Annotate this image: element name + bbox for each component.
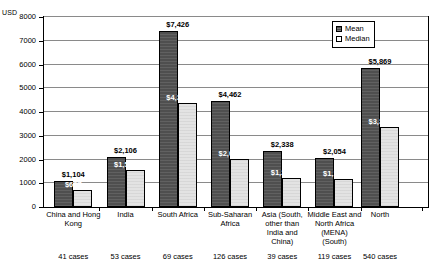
bar-value-label-median: $1,228 bbox=[252, 168, 312, 177]
bar-value-label-median: $4,366 bbox=[148, 93, 208, 102]
case-count-label: 540 cases bbox=[345, 252, 415, 261]
legend-swatch-mean-icon bbox=[336, 26, 342, 32]
bar-value-label-median: $697 bbox=[43, 180, 103, 189]
bar-mean[interactable] bbox=[361, 68, 380, 207]
y-tick-label: 2000 bbox=[2, 156, 36, 164]
y-tick-label: 3000 bbox=[2, 132, 36, 140]
legend-item-median: Median bbox=[336, 34, 370, 44]
y-tick-label: 5000 bbox=[2, 84, 36, 92]
bar-mean[interactable] bbox=[263, 151, 282, 207]
bar-median[interactable] bbox=[380, 127, 399, 207]
bar-group bbox=[107, 17, 145, 207]
bar-value-label-mean: $5,869 bbox=[350, 57, 410, 66]
bar-median[interactable] bbox=[230, 159, 249, 207]
bar-value-label-mean: $7,426 bbox=[148, 20, 208, 29]
y-tick-label: 1000 bbox=[2, 179, 36, 187]
bar-group bbox=[159, 17, 197, 207]
legend-item-mean: Mean bbox=[336, 24, 370, 34]
bar-value-label-mean: $2,054 bbox=[304, 147, 364, 156]
bar-group bbox=[263, 17, 301, 207]
bar-value-label-mean: $4,462 bbox=[200, 90, 260, 99]
bar-median[interactable] bbox=[126, 170, 145, 207]
bar-value-label-median: $1,163 bbox=[304, 169, 364, 178]
bar-value-label-mean: $1,104 bbox=[43, 170, 103, 179]
legend-label-median: Median bbox=[345, 35, 370, 43]
bar-group bbox=[211, 17, 249, 207]
bar-median[interactable] bbox=[282, 178, 301, 207]
y-tick-label: 6000 bbox=[2, 61, 36, 69]
bar-mean[interactable] bbox=[315, 158, 334, 207]
chart-legend: Mean Median bbox=[332, 21, 375, 48]
bar-value-label-median: $1,557 bbox=[96, 160, 156, 169]
bar-value-label-median: $2,029 bbox=[200, 149, 260, 158]
bar-value-label-mean: $2,106 bbox=[96, 146, 156, 155]
y-tick-label: 4000 bbox=[2, 108, 36, 116]
case-counts-row: 41 cases53 cases69 cases126 cases39 case… bbox=[43, 252, 429, 266]
bar-mean[interactable] bbox=[159, 31, 178, 207]
bar-median[interactable] bbox=[334, 179, 353, 207]
y-tick-label: 8000 bbox=[2, 13, 36, 21]
bar-chart: USD 010002000300040005000600070008000 $1… bbox=[0, 0, 442, 274]
bar-median[interactable] bbox=[73, 190, 92, 207]
x-axis-category-label: North bbox=[342, 210, 418, 219]
bar-value-label-mean: $2,338 bbox=[252, 140, 312, 149]
x-axis-labels: China and HongKongIndiaSouth AfricaSub-S… bbox=[43, 210, 429, 250]
legend-swatch-median-icon bbox=[336, 36, 342, 42]
bar-value-label-median: $3,380 bbox=[350, 117, 410, 126]
y-tick-label: 0 bbox=[2, 203, 36, 211]
y-tick-label: 7000 bbox=[2, 37, 36, 45]
bar-median[interactable] bbox=[178, 103, 197, 207]
legend-label-mean: Mean bbox=[345, 25, 364, 33]
